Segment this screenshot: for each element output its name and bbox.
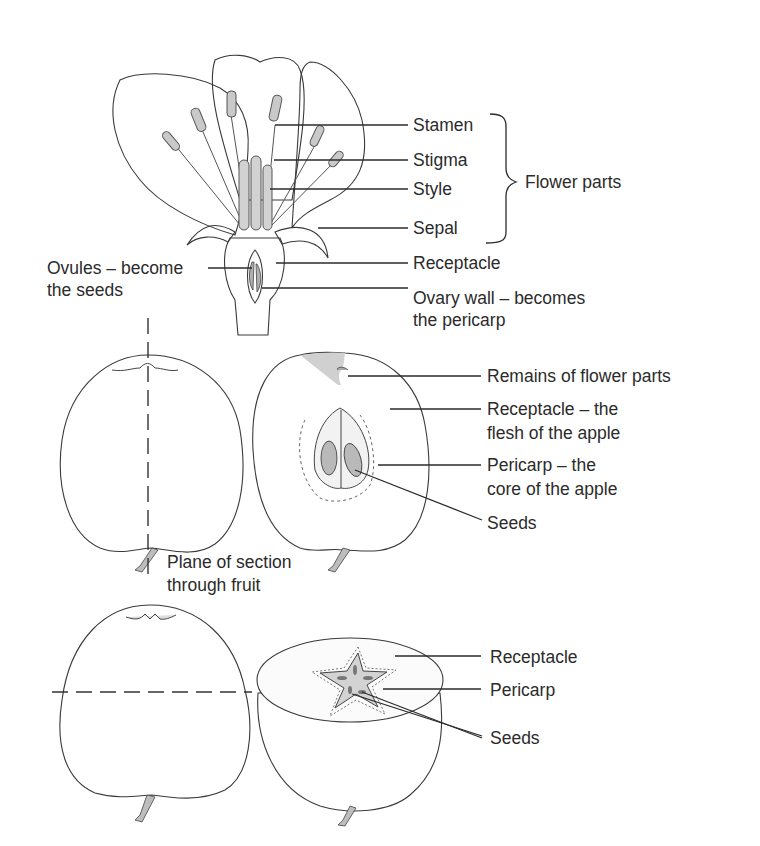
label-plane-of-section-line2: through fruit bbox=[167, 575, 261, 595]
label-plane-of-section-line1: Plane of section bbox=[167, 552, 292, 572]
longitudinal-leader-lines bbox=[348, 376, 482, 520]
label-receptacle-flesh-line2: flesh of the apple bbox=[487, 423, 620, 443]
right-sepal bbox=[275, 228, 328, 258]
receptacle bbox=[225, 238, 285, 335]
label-pericarp-core-line1: Pericarp – the bbox=[487, 455, 596, 475]
right-petal bbox=[292, 62, 365, 228]
styles bbox=[239, 156, 272, 230]
label-pericarp-core-line2: core of the apple bbox=[487, 479, 617, 499]
label-stigma: Stigma bbox=[413, 150, 468, 170]
diagram-canvas: Stamen Stigma Style Sepal Receptacle Ova… bbox=[0, 0, 760, 846]
label-remains-of-flower-parts: Remains of flower parts bbox=[487, 366, 671, 386]
label-ovules-line1: Ovules – become bbox=[47, 258, 183, 278]
whole-apple-horizontal bbox=[52, 605, 252, 822]
apple-transverse-section bbox=[257, 638, 443, 826]
label-sepal: Sepal bbox=[413, 218, 458, 238]
apple-longitudinal-section bbox=[253, 352, 429, 572]
label-ovary-wall-line1: Ovary wall – becomes bbox=[413, 288, 585, 308]
label-receptacle: Receptacle bbox=[413, 253, 501, 273]
whole-apple-vertical bbox=[60, 318, 243, 582]
label-receptacle-transverse: Receptacle bbox=[490, 647, 578, 667]
label-pericarp-transverse: Pericarp bbox=[490, 680, 555, 700]
flower-illustration bbox=[113, 55, 365, 335]
ovules bbox=[249, 262, 260, 292]
label-ovules-line2: the seeds bbox=[47, 280, 123, 300]
label-flower-parts: Flower parts bbox=[525, 172, 622, 192]
label-receptacle-flesh-line1: Receptacle – the bbox=[487, 399, 618, 419]
label-seeds-transverse: Seeds bbox=[490, 728, 540, 748]
label-seeds-longitudinal: Seeds bbox=[487, 513, 537, 533]
label-style: Style bbox=[413, 179, 452, 199]
flower-leader-lines bbox=[208, 125, 408, 288]
label-stamen: Stamen bbox=[413, 115, 473, 135]
flower-parts-bracket bbox=[486, 114, 516, 243]
label-ovary-wall-line2: the pericarp bbox=[413, 310, 505, 330]
